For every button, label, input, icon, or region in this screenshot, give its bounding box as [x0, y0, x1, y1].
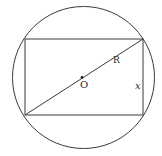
geometry-figure [0, 0, 162, 156]
side-length-label: x [135, 81, 141, 91]
diagonal-diameter [25, 39, 143, 115]
diagram-canvas: O R x [0, 0, 162, 156]
center-label: O [80, 80, 88, 90]
radius-label: R [113, 56, 120, 65]
